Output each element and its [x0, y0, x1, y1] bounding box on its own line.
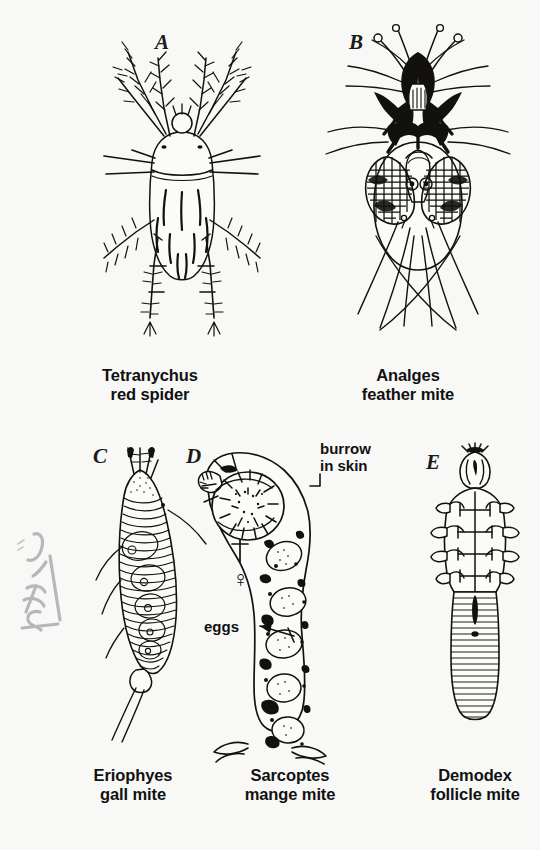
caption-sarcoptes: Sarcoptes mange mite: [200, 766, 380, 804]
figure-sarcoptes-burrow: [192, 444, 352, 764]
annotation-female-symbol: ♀: [232, 568, 249, 591]
figure-tetranychus: [92, 22, 272, 352]
handwritten-margin-note: [14, 516, 92, 636]
caption-tetranychus: Tetranychus red spider: [60, 366, 240, 404]
caption-demodex: Demodex follicle mite: [385, 766, 540, 804]
caption-eriophyes: Eriophyes gall mite: [48, 766, 218, 804]
figure-plate: A: [0, 0, 540, 850]
figure-demodex: [420, 446, 530, 736]
annotation-burrow-in-skin: burrow in skin: [320, 440, 371, 474]
annotation-eggs: eggs: [204, 618, 239, 635]
figure-analges: [318, 22, 518, 352]
caption-analges: Analges feather mite: [318, 366, 498, 404]
